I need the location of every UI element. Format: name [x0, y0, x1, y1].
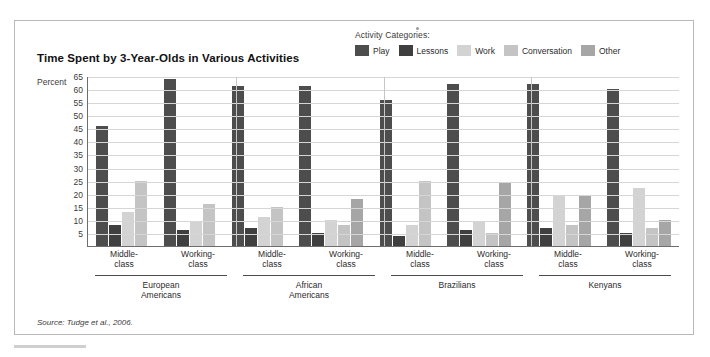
chart-title: Time Spent by 3-Year-Olds in Various Act… [37, 52, 299, 64]
x-group-label: AfricanAmericans [243, 280, 375, 300]
y-tick-label: 65 [74, 72, 83, 82]
legend-item-other: Other [581, 45, 620, 56]
bar-lessons [393, 236, 405, 246]
x-group-rule [391, 275, 523, 276]
x-subgroup-label: Middle-class [531, 249, 605, 269]
bar-lessons [177, 230, 189, 246]
group-separator [384, 77, 385, 246]
y-axis-tick-labels: 6560555045403530252015105 [63, 77, 83, 247]
bar-other [499, 183, 511, 246]
legend-item-conversation: Conversation [504, 45, 572, 56]
legend-swatch-lessons [399, 45, 413, 56]
legend-swatch-other [581, 45, 595, 56]
y-tick-label: 20 [74, 190, 83, 200]
bar-conversation [338, 225, 350, 246]
y-tick-label: 25 [74, 177, 83, 187]
x-subgroup-label: Middle-class [87, 249, 161, 269]
bar-play [607, 89, 619, 246]
x-group-label: EuropeanAmericans [95, 280, 227, 300]
legend-item-lessons: Lessons [399, 45, 449, 56]
bar-play [232, 86, 244, 246]
bar-lessons [460, 230, 472, 246]
x-subgroup-label: Working-class [605, 249, 679, 269]
x-group-label: Kenyans [539, 280, 671, 290]
bar-play [299, 86, 311, 246]
legend-item-play: Play [355, 45, 390, 56]
y-tick-label: 10 [74, 216, 83, 226]
bar-work [122, 212, 134, 246]
y-tick-label: 60 [74, 85, 83, 95]
legend-label: Conversation [522, 46, 572, 56]
y-tick-label: 30 [74, 164, 83, 174]
bar-conversation [203, 204, 215, 246]
x-group-block: AfricanAmericans [235, 275, 383, 300]
y-tick-label: 5 [78, 229, 83, 239]
y-tick-label: 40 [74, 137, 83, 147]
y-tick-label: 45 [74, 124, 83, 134]
x-subgroup-label: Working-class [457, 249, 531, 269]
x-axis-subgroup-labels: Middle-classWorking-classMiddle-classWor… [87, 249, 679, 269]
legend-label: Work [475, 46, 495, 56]
legend-label: Play [373, 46, 390, 56]
bottom-rule [14, 345, 86, 348]
legend-swatch-conversation [504, 45, 518, 56]
bar-conversation [135, 181, 147, 246]
y-tick-label: 15 [74, 203, 83, 213]
chart-legend: Activity Categories: PlayLessonsWorkConv… [355, 30, 685, 56]
x-group-rule [539, 275, 671, 276]
legend-item-work: Work [457, 45, 495, 56]
x-group-block: EuropeanAmericans [87, 275, 235, 300]
bar-lessons [540, 228, 552, 246]
x-axis-group-labels: EuropeanAmericansAfricanAmericansBrazili… [87, 275, 679, 300]
x-subgroup-label: Working-class [309, 249, 383, 269]
bar-conversation [566, 225, 578, 246]
figure-frame: Activity Categories: PlayLessonsWorkConv… [14, 20, 694, 335]
x-subgroup-label: Middle-class [383, 249, 457, 269]
y-tick-label: 55 [74, 98, 83, 108]
legend-swatch-work [457, 45, 471, 56]
group-separator [236, 77, 237, 246]
bar-play [380, 100, 392, 246]
legend-swatch-play [355, 45, 369, 56]
bar-other [351, 199, 363, 246]
bar-conversation [419, 181, 431, 246]
bar-lessons [109, 225, 121, 246]
bar-work [325, 220, 337, 246]
bar-lessons [245, 228, 257, 246]
bar-other [659, 220, 671, 246]
bar-work [406, 225, 418, 246]
legend-label: Other [599, 46, 620, 56]
plot-area [87, 77, 679, 247]
legend-label: Lessons [417, 46, 449, 56]
bar-play [96, 126, 108, 246]
x-group-block: Brazilians [383, 275, 531, 300]
legend-title: Activity Categories: [355, 30, 685, 40]
y-axis-unit-label: Percent [37, 77, 66, 87]
x-group-rule [95, 275, 227, 276]
x-subgroup-label: Middle-class [235, 249, 309, 269]
bar-conversation [271, 207, 283, 246]
x-group-label: Brazilians [391, 280, 523, 290]
y-tick-label: 50 [74, 111, 83, 121]
y-tick-label: 35 [74, 150, 83, 160]
x-group-rule [243, 275, 375, 276]
x-subgroup-label: Working-class [161, 249, 235, 269]
legend-items: PlayLessonsWorkConversationOther [355, 45, 685, 56]
source-note: Source: Tudge et al., 2006. [37, 318, 133, 327]
x-group-block: Kenyans [531, 275, 679, 300]
plot-wrapper: 6560555045403530252015105 [87, 77, 679, 267]
bar-work [633, 188, 645, 246]
group-separator [531, 77, 532, 246]
bar-conversation [646, 228, 658, 246]
